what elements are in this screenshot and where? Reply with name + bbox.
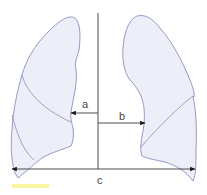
label-b: b: [119, 110, 125, 122]
lung-diagram: a b c: [0, 0, 207, 195]
right-lung: [123, 16, 197, 182]
left-lung: [11, 17, 80, 178]
label-a: a: [82, 98, 89, 110]
label-c: c: [97, 174, 103, 186]
highlight-bar: [12, 184, 49, 188]
